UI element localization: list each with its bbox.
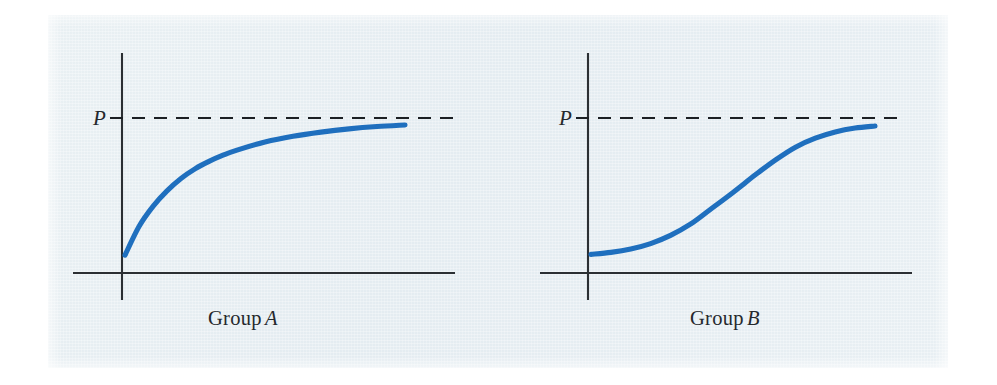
panel-caption-group-b: GroupB xyxy=(690,307,760,330)
asymptote-label-p-a: P xyxy=(93,108,106,129)
panel-caption-b-prefix: Group xyxy=(690,307,744,329)
chart-panel-group-a: P GroupA xyxy=(48,15,498,368)
curve-group-b xyxy=(591,126,875,254)
curve-group-a-visible xyxy=(125,125,405,255)
panel-caption-a-prefix: Group xyxy=(208,307,262,329)
chart-panel-group-b: P GroupB xyxy=(498,15,948,368)
asymptote-label-p-b: P xyxy=(559,108,572,129)
panel-caption-group-a: GroupA xyxy=(208,307,278,330)
figure-plate: P GroupA P GroupB xyxy=(48,15,948,368)
panel-caption-b-symbol: B xyxy=(744,307,760,329)
panel-caption-a-symbol: A xyxy=(262,307,278,329)
figure-root: P GroupA P GroupB xyxy=(0,0,997,385)
